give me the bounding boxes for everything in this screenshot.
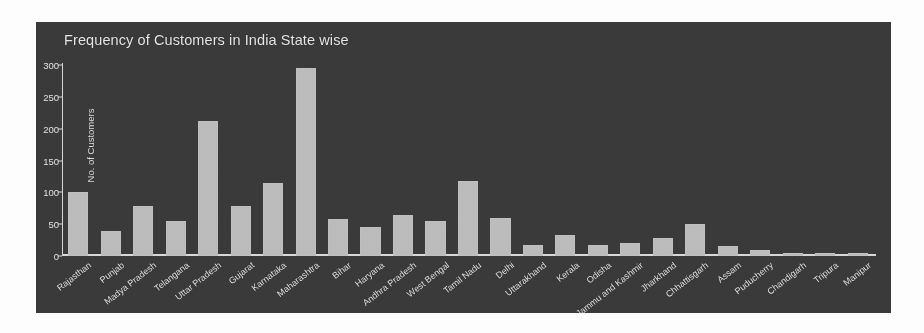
bar-series [62, 65, 874, 256]
screenshot-root: Frequency of Customers in India State wi… [0, 0, 924, 333]
plot-area: 050100150200250300 [62, 65, 874, 256]
bar [393, 215, 413, 256]
x-axis-labels: RajasthanPunjabMadya PradeshTelanganaUtt… [62, 260, 874, 313]
bar [588, 245, 608, 256]
bar [101, 231, 121, 256]
bar [685, 224, 705, 256]
bar [718, 246, 738, 256]
bar [328, 219, 348, 256]
bar [783, 253, 803, 256]
bar [425, 221, 445, 256]
y-axis-tick-label: 250 [43, 91, 59, 102]
bar [523, 245, 543, 256]
bar [263, 183, 283, 256]
bar [133, 206, 153, 256]
bar [620, 243, 640, 256]
y-axis-tick-label: 150 [43, 155, 59, 166]
y-axis-tick-label: 200 [43, 123, 59, 134]
chart-title: Frequency of Customers in India State wi… [64, 32, 349, 48]
x-axis-tick-label: Rajasthan [55, 260, 93, 293]
bar [458, 181, 478, 256]
bar [231, 206, 251, 256]
x-axis-tick-label: Delhi [493, 260, 515, 281]
x-axis-tick-label: Tripura [812, 260, 840, 285]
y-axis-tick-label: 100 [43, 187, 59, 198]
bar [490, 218, 510, 256]
y-axis-tick-label: 300 [43, 60, 59, 71]
x-axis-tick-label: Bihar [331, 260, 354, 281]
x-axis-tick-label: Manipur [841, 260, 873, 288]
bar [166, 221, 186, 256]
bar [653, 238, 673, 256]
bar [198, 121, 218, 256]
chart-panel: Frequency of Customers in India State wi… [36, 22, 891, 313]
bar [848, 253, 868, 256]
bar [296, 68, 316, 256]
bar [360, 227, 380, 256]
x-axis-tick-label: Kerala [554, 260, 581, 284]
x-axis-tick-label: Punjab [98, 260, 126, 285]
x-axis-tick-label: Odisha [584, 260, 613, 285]
x-axis-tick-label: Assam [715, 260, 743, 285]
bar [750, 250, 770, 256]
bar [68, 192, 88, 256]
bar [815, 253, 835, 256]
bar [555, 235, 575, 256]
